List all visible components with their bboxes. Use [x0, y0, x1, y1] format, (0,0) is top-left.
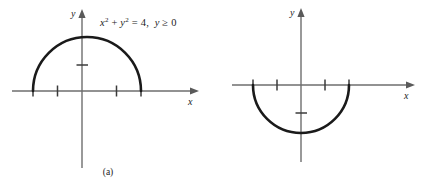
- x-axis-label-b: x: [403, 90, 409, 101]
- y-axis-arrowhead-b: [297, 8, 304, 17]
- panel-a: x y x2 + y2 = 4, y ≥ 0 (a): [0, 0, 216, 190]
- eq-a-plus: +: [111, 17, 117, 28]
- eq-a-cond-rel: ≥ 0: [162, 17, 176, 28]
- y-axis-arrowhead-a: [78, 9, 85, 18]
- equation-label-a: x2 + y2 = 4, y ≥ 0: [100, 17, 177, 28]
- upper-semicircle-curve: [33, 37, 141, 91]
- y-axis-label-b: y: [289, 7, 295, 18]
- eq-a-exp-y: 2: [125, 16, 129, 24]
- panel-b-plot: x y: [216, 0, 433, 190]
- eq-a-cond-var: y: [155, 17, 160, 28]
- panel-b: x y x2 + y2 = 4, y ≤ 0 (b): [216, 0, 433, 190]
- eq-a-exp-x: 2: [105, 16, 109, 24]
- figure-container: x y x2 + y2 = 4, y ≥ 0 (a) x y: [0, 0, 433, 190]
- x-axis-label-a: x: [187, 96, 193, 107]
- panel-caption-a: (a): [88, 167, 128, 177]
- y-axis-label-a: y: [70, 8, 76, 19]
- panel-a-plot: x y: [0, 0, 216, 190]
- eq-a-equals: = 4,: [132, 17, 149, 28]
- x-axis-arrowhead-a: [190, 87, 199, 94]
- x-axis-arrowhead-b: [406, 81, 415, 88]
